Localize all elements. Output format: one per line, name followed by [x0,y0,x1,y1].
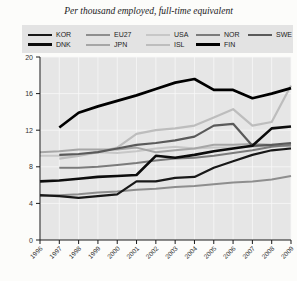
legend-item-fin: FIN [196,41,248,48]
legend-label-nor: NOR [224,31,240,38]
x-tick-label: 2003 [164,244,179,259]
y-tick-label: 4 [29,200,33,207]
chart-legend: KOREU27USANORSWEDNKJPNISLFIN [22,25,293,53]
legend-line-swatch-fin [196,43,220,46]
y-tick-label: 8 [29,163,33,170]
x-tick-label: 2005 [202,244,217,259]
legend-label-swe: SWE [276,31,292,38]
legend-label-kor: KOR [56,31,71,38]
legend-line-swatch-usa [146,34,170,36]
y-tick-label: 20 [25,54,33,61]
x-tick-label: 2002 [144,244,159,259]
legend-item-isl: ISL [146,41,196,48]
x-tick-label: 1998 [67,244,82,259]
x-tick-label: 2006 [222,244,237,259]
legend-item-eu27: EU27 [86,31,146,38]
legend-label-jpn: JPN [114,41,127,48]
legend-line-swatch-dnk [28,43,52,46]
x-tick-label: 1999 [86,244,101,259]
x-tick-label: 2009 [280,244,295,259]
legend-item-nor: NOR [196,31,248,38]
legend-line-swatch-jpn [86,44,110,46]
legend-label-eu27: EU27 [114,31,132,38]
y-tick-label: 16 [25,90,33,97]
legend-label-fin: FIN [224,41,235,48]
x-tick-label: 1996 [29,244,44,259]
x-tick-label: 2004 [183,244,198,259]
x-tick-label: 1997 [48,244,63,259]
legend-line-swatch-isl [146,44,170,46]
x-tick-label: 2000 [106,244,121,259]
legend-item-jpn: JPN [86,41,146,48]
legend-item-usa: USA [146,31,196,38]
legend-item-swe: SWE [248,31,291,38]
legend-item-kor: KOR [28,31,86,38]
x-tick-label: 2001 [125,244,140,259]
line-chart: 0481216201996199719981999200020012002200… [0,53,297,276]
y-tick-label: 12 [25,127,33,134]
legend-label-dnk: DNK [56,41,71,48]
legend-line-swatch-swe [248,34,272,36]
legend-label-isl: ISL [174,41,185,48]
legend-line-swatch-eu27 [86,34,110,36]
legend-line-swatch-nor [196,34,220,36]
x-tick-label: 2008 [260,244,275,259]
legend-label-usa: USA [174,31,188,38]
researchers-line-chart-figure: Per thousand employed, full-time equival… [0,0,297,281]
chart-title: Per thousand employed, full-time equival… [4,5,293,17]
legend-line-swatch-kor [28,34,52,36]
legend-item-dnk: DNK [28,41,86,48]
x-tick-label: 2007 [241,244,256,259]
y-tick-label: 0 [29,237,33,244]
